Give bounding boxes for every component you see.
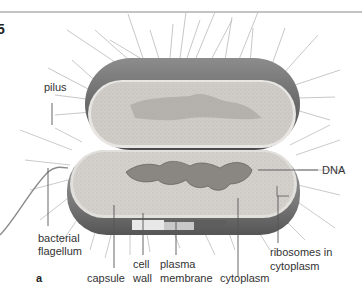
label-cytoplasm: cytoplasm <box>220 272 270 285</box>
label-cell-wall-2: wall <box>133 272 152 285</box>
cell-bottom-half <box>67 150 300 235</box>
cell-top-half <box>85 58 300 150</box>
label-plasma-membrane-2: membrane <box>160 272 213 285</box>
panel-label: a <box>36 272 42 284</box>
flagellum <box>0 167 68 235</box>
label-ribosomes-2: cytoplasm <box>270 260 320 273</box>
label-bacterial-flagellum-1: bacterial <box>38 232 80 245</box>
cytoplasm-section <box>194 220 226 228</box>
label-ribosomes-1: ribosomes in <box>270 246 332 259</box>
cell-wall-section <box>132 220 164 230</box>
label-capsule: capsule <box>87 272 125 285</box>
label-cell-wall-1: cell <box>133 258 150 271</box>
label-plasma-membrane-1: plasma <box>160 258 195 271</box>
label-pilus: pilus <box>44 81 67 94</box>
label-dna: DNA <box>322 164 345 177</box>
label-bacterial-flagellum-2: flagellum <box>38 245 82 258</box>
bacterial-cell-diagram: 5 <box>0 0 362 301</box>
membrane-section <box>164 222 194 230</box>
